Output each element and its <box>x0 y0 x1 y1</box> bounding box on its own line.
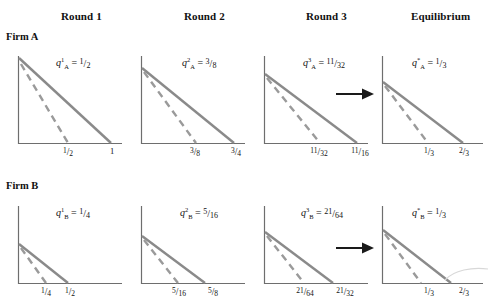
arrow-firm-a <box>336 86 376 106</box>
row-label-firm-b: Firm B <box>6 180 38 191</box>
tick-label-b1-1: 1/2 <box>65 286 75 298</box>
solid-reaction-line <box>383 230 451 283</box>
row-label-firm-a: Firm A <box>6 31 38 42</box>
tick-label-a4-0: 1/3 <box>424 146 434 158</box>
scan-artifact <box>444 266 492 288</box>
tick-label-a1-0: 1/2 <box>63 146 73 158</box>
eq-superscript: 1 <box>61 56 64 63</box>
column-header-round-3: Round 3 <box>306 10 347 22</box>
eq-denominator: 2 <box>86 60 90 69</box>
dashed-reaction-line <box>385 86 428 143</box>
tick-label-a3-1: 11/16 <box>351 146 368 158</box>
equation-firm-b-equilibrium: q*B = 1/3 <box>412 206 446 220</box>
solid-reaction-line <box>19 244 68 283</box>
panel-firm-a-round-2 <box>141 56 249 152</box>
arrow-firm-b <box>336 240 376 260</box>
solid-reaction-line <box>19 58 111 143</box>
equation-firm-a-round-3: q3A = 11/32 <box>303 56 345 70</box>
equation-firm-a-equilibrium: q*A = 1/3 <box>412 56 446 70</box>
dashed-reaction-line <box>385 234 421 283</box>
dashed-reaction-line <box>21 248 46 283</box>
tick-label-a3-0: 11/32 <box>310 146 327 158</box>
dashed-reaction-line <box>144 72 196 143</box>
dashed-reaction-line <box>267 236 304 283</box>
tick-label-a4-1: 2/3 <box>459 146 469 158</box>
eq-relation: = <box>71 57 77 68</box>
tick-label-a2-0: 3/8 <box>190 146 200 158</box>
solid-reaction-line <box>142 236 205 283</box>
column-header-equilibrium: Equilibrium <box>411 10 470 22</box>
tick-label-b3-0: 21/64 <box>296 286 314 298</box>
equation-firm-b-round-2: q2B = 5/16 <box>180 206 218 220</box>
dashed-reaction-line <box>144 240 178 283</box>
eq-subscript: A <box>64 63 69 70</box>
dashed-reaction-line <box>21 64 68 143</box>
tick-label-b2-1: 5/8 <box>208 286 218 298</box>
equation-firm-a-round-2: q2A = 3/8 <box>182 56 216 70</box>
tick-label-b1-0: 1/4 <box>41 286 51 298</box>
equation-firm-b-round-3: q3B = 21/64 <box>301 206 343 220</box>
panel-firm-a-equilibrium <box>382 56 487 152</box>
column-header-round-1: Round 1 <box>61 10 102 22</box>
tick-label-b3-1: 21/32 <box>336 286 354 298</box>
solid-reaction-line <box>383 82 463 143</box>
cournot-convergence-figure: Round 1 Round 2 Round 3 Equilibrium Firm… <box>0 0 493 308</box>
tick-label-b4-0: 1/3 <box>424 286 434 298</box>
tick-label-a1-1: 1 <box>110 146 114 156</box>
tick-label-a2-1: 3/4 <box>231 146 241 158</box>
column-header-round-2: Round 2 <box>184 10 225 22</box>
equation-firm-b-round-1: q1B = 1/4 <box>56 206 90 220</box>
solid-reaction-line <box>265 74 357 143</box>
tick-label-b2-0: 5/16 <box>172 286 186 298</box>
equation-firm-a-round-1: q1A = 1/2 <box>56 56 90 70</box>
panel-firm-a-round-1 <box>18 56 126 152</box>
